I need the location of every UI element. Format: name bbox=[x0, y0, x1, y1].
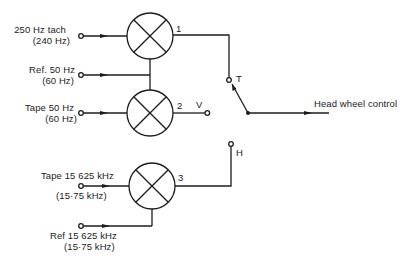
comparator-1-icon bbox=[127, 13, 173, 59]
comparator-3-icon bbox=[129, 163, 175, 209]
comparator-2-icon bbox=[127, 90, 173, 136]
terminal-h-label: H bbox=[236, 148, 243, 158]
output-1-wire bbox=[173, 35, 231, 82]
terminal-t-label: T bbox=[236, 74, 242, 84]
arrow-icon bbox=[304, 111, 312, 115]
input-ref15-label: Ref 15 625 kHz bbox=[50, 231, 117, 241]
output-2-wire bbox=[173, 111, 210, 116]
input-tape50-sublabel: (60 Hz) bbox=[0, 114, 77, 124]
output-label: Head wheel control bbox=[314, 99, 397, 109]
arrow-icon bbox=[102, 224, 110, 228]
input-tape15-sublabel: (15·75 kHz) bbox=[56, 191, 107, 201]
arrowheads bbox=[100, 34, 312, 228]
terminal-v-label: V bbox=[196, 100, 202, 110]
comparator-3-label: 3 bbox=[178, 173, 183, 183]
comparator-2-label: 2 bbox=[177, 101, 182, 111]
input-ref50-label: Ref. 50 Hz bbox=[0, 65, 75, 75]
arrow-icon bbox=[100, 73, 108, 77]
input-tach-label: 250 Hz tach bbox=[0, 25, 66, 35]
input-tape15-label: Tape 15 625 kHz bbox=[41, 171, 114, 181]
comparator-1-label: 1 bbox=[176, 24, 181, 34]
input-ref15-sublabel: (15·75 kHz) bbox=[64, 242, 115, 252]
phase-comparator-diagram: 250 Hz tach (240 Hz) Ref. 50 Hz (60 Hz) … bbox=[0, 0, 407, 261]
input-tach-sublabel: (240 Hz) bbox=[0, 36, 70, 46]
input-ref50-sublabel: (60 Hz) bbox=[0, 76, 74, 86]
arrow-icon bbox=[102, 184, 110, 188]
input-ref15-wire bbox=[79, 209, 152, 228]
arrow-icon bbox=[100, 34, 108, 38]
arrow-icon bbox=[100, 111, 108, 115]
input-tape50-label: Tape 50 Hz bbox=[0, 103, 74, 113]
input-ref50-wire bbox=[79, 59, 150, 90]
output-3-wire bbox=[175, 142, 233, 186]
